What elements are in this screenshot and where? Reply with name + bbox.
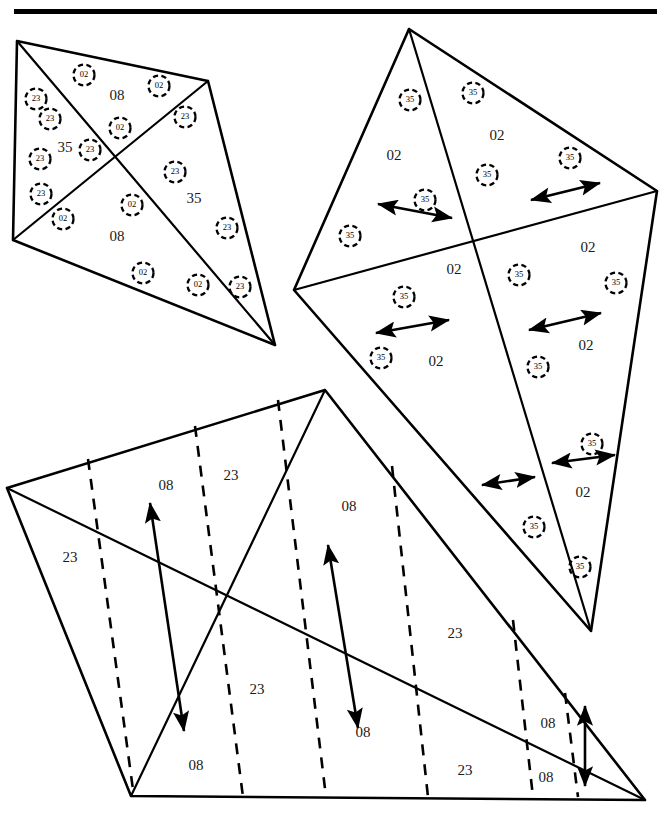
marker-02-5: 02 [110,118,131,139]
region-label-08-4: 08 [110,228,125,244]
region-label-08-11: 08 [539,769,554,785]
marker-02-12: 02 [122,195,143,216]
region-label-08-6: 08 [189,757,204,773]
marker-value: 35 [483,169,492,179]
shapes-group: 0202232302232323232302022302022308353508… [7,29,657,800]
marker-value: 35 [377,352,386,362]
marker-value: 35 [576,561,585,571]
region-label-08-10: 08 [541,715,556,731]
marker-value: 35 [469,87,478,97]
marker-value: 35 [421,194,430,204]
region-label-23-9: 23 [458,762,473,778]
marker-value: 35 [566,152,575,162]
marker-35-5: 35 [415,190,436,211]
marker-value: 02 [139,267,148,277]
region-label-02-4: 02 [581,239,596,255]
marker-value: 23 [223,222,232,232]
internal-line-2 [294,191,657,290]
shape-kite-right: 3535353535353535353535353535020202020202… [294,29,657,631]
marker-35-6: 35 [340,226,361,247]
region-label-35-2: 35 [58,139,73,155]
marker-value: 02 [80,69,89,79]
marker-value: 02 [155,80,164,90]
marker-value: 23 [171,166,180,176]
marker-35-2: 35 [463,83,484,104]
dimension-arrow-5 [482,477,535,485]
marker-35-9: 35 [606,273,627,294]
dimension-arrow-2 [531,183,600,200]
region-label-35-3: 35 [187,190,202,206]
internal-line-2 [131,390,325,796]
marker-value: 35 [534,361,543,371]
region-label-23-8: 23 [448,625,463,641]
region-label-08-7: 08 [356,724,371,740]
marker-23-13: 23 [217,218,238,239]
region-label-23-2: 23 [224,467,239,483]
marker-35-10: 35 [371,348,392,369]
marker-02-15: 02 [188,275,209,296]
dimension-arrow-6 [552,455,615,463]
marker-value: 23 [46,113,55,123]
marker-value: 23 [32,93,41,103]
region-label-02-2: 02 [490,127,505,143]
marker-23-4: 23 [40,109,61,130]
marker-value: 02 [116,122,125,132]
region-label-02-1: 02 [387,147,402,163]
marker-02-2: 02 [149,76,170,97]
outline-polygon-bottom [7,390,645,800]
marker-23-9: 23 [31,184,52,205]
region-label-23-5: 23 [250,681,265,697]
region-label-08-4: 08 [342,498,357,514]
marker-35-4: 35 [560,148,581,169]
marker-value: 23 [36,153,45,163]
marker-23-8: 23 [80,140,101,161]
marker-value: 35 [400,291,409,301]
diagram-canvas: 0202232302232323232302022302022308353508… [0,0,671,814]
dimension-arrow-4 [529,313,601,330]
dimension-arrow-2 [328,545,358,728]
marker-value: 35 [588,438,597,448]
marker-23-3: 23 [26,89,47,110]
region-label-02-3: 02 [447,261,462,277]
marker-value: 23 [86,144,95,154]
marker-value: 35 [530,521,539,531]
marker-02-14: 02 [133,263,154,284]
outline-kite-right [294,29,657,631]
shape-kite-top-left: 0202232302232323232302022302022308353508 [13,41,275,345]
region-label-08-1: 08 [110,87,125,103]
region-label-02-5: 02 [429,353,444,369]
marker-35-7: 35 [394,287,415,308]
marker-35-3: 35 [477,165,498,186]
marker-35-11: 35 [528,357,549,378]
marker-02-1: 02 [74,65,95,86]
marker-value: 02 [194,279,203,289]
marker-value: 23 [236,281,245,291]
marker-23-7: 23 [30,149,51,170]
shape-polygon-bottom: 0823230823080823230808 [7,390,645,800]
marker-value: 02 [59,213,68,223]
dashed-fold-line-6 [565,693,578,797]
region-label-02-6: 02 [579,337,594,353]
region-label-08-1: 08 [159,477,174,493]
dashed-fold-line-3 [278,400,326,797]
region-label-23-3: 23 [63,549,78,565]
marker-value: 23 [37,188,46,198]
marker-35-13: 35 [524,517,545,538]
marker-02-11: 02 [53,209,74,230]
marker-35-12: 35 [582,434,603,455]
dimension-arrow-1 [378,204,452,218]
dimension-arrow-3 [376,320,449,333]
marker-value: 35 [346,230,355,240]
internal-line-1 [7,488,645,800]
marker-23-6: 23 [175,107,196,128]
marker-35-8: 35 [509,265,530,286]
marker-value: 02 [128,199,137,209]
marker-value: 35 [515,269,524,279]
dashed-fold-line-5 [513,620,533,797]
marker-35-1: 35 [400,90,421,111]
internal-line-1 [409,29,591,631]
top-horizontal-rule [14,9,657,14]
marker-23-10: 23 [165,162,186,183]
region-label-02-7: 02 [576,484,591,500]
marker-value: 23 [181,111,190,121]
